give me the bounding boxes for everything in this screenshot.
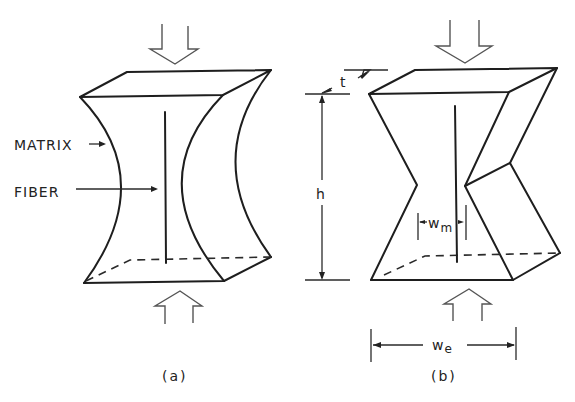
left-concave-edge [80, 97, 121, 283]
fiber-line [455, 106, 457, 262]
bottom-front-edge [371, 253, 560, 280]
hidden-bottom-edges [384, 253, 560, 275]
load-arrow-up-icon [444, 289, 491, 321]
load-arrow-down-icon [436, 20, 492, 63]
top-face [80, 70, 271, 97]
back-right-concave-edge [236, 70, 272, 257]
matrix-width-dimension: wm [418, 205, 466, 240]
matrix-label: MATRIX [14, 137, 73, 153]
panel-a: MATRIX FIBER (a) [14, 24, 271, 384]
thickness-label: t [340, 74, 347, 90]
bottom-front-edge [84, 257, 271, 283]
height-dimension: h [305, 95, 350, 280]
caption-b: (b) [431, 368, 457, 384]
front-right-notched-edge [465, 92, 513, 280]
fiber-label: FIBER [14, 184, 59, 200]
left-notched-edge [369, 94, 417, 280]
height-label: h [316, 186, 326, 202]
fiber-arrowhead-icon [151, 186, 158, 192]
we-arrowhead-left-icon [373, 342, 381, 348]
composite-compression-figure: MATRIX FIBER (a) [0, 0, 575, 402]
top-face [369, 68, 557, 94]
h-arrowhead-up-icon [319, 95, 325, 103]
matrix-width-label: wm [428, 215, 453, 235]
element-width-dimension: we [371, 327, 516, 362]
matrix-arrowhead-icon [99, 141, 106, 147]
element-width-label: we [432, 337, 453, 356]
fiber-line [165, 112, 166, 263]
load-arrow-up-icon [155, 291, 202, 324]
panel-b: t h wm [305, 20, 560, 384]
we-arrowhead-right-icon [507, 342, 515, 348]
notch-crease [465, 163, 510, 186]
front-right-concave-edge [182, 95, 224, 281]
caption-a: (a) [162, 368, 188, 384]
load-arrow-down-icon [150, 24, 198, 64]
h-arrowhead-down-icon [319, 272, 325, 280]
back-right-notched-edge [510, 68, 560, 253]
hidden-bottom-edges [86, 257, 271, 281]
